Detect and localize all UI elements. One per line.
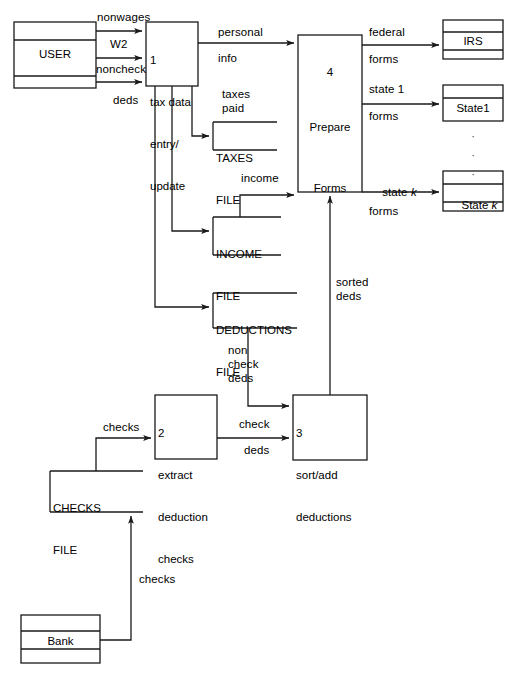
flow-label-forms-statek: forms — [369, 205, 398, 219]
entity-statek-label: State k — [443, 187, 503, 223]
process-1-label: 1 tax data entry/ update — [150, 25, 191, 221]
process-4-label: 4 Prepare Forms — [298, 37, 362, 223]
entity-state1-label: State1 — [443, 102, 503, 114]
entity-irs-label: IRS — [443, 35, 503, 47]
process-3-label: 3 sort/add deductions — [296, 398, 352, 552]
store-taxes-line2: FILE — [216, 193, 253, 207]
entity-bank-label: Bank — [21, 635, 100, 647]
process-4-line2: Forms — [298, 181, 362, 195]
process-1-line1: tax data — [150, 95, 191, 109]
flow-label-checks-bank: checks — [139, 573, 175, 587]
store-checks-line2: FILE — [53, 543, 101, 557]
flow-label-income: income — [241, 172, 279, 186]
flow-bankchecks-line — [100, 516, 131, 640]
process-2-label: 2 extract deduction checks — [158, 398, 208, 594]
flow-label-w2: W2 — [110, 38, 127, 52]
store-checks-line1: CHECKS — [53, 501, 101, 515]
process-3-number: 3 — [296, 426, 352, 440]
flow-label-statek-text: state — [382, 186, 411, 198]
entity-user-label: USER — [14, 48, 96, 60]
flow-label-forms-state1: forms — [369, 110, 398, 124]
store-income-line1: INCOME — [216, 247, 262, 261]
ellipsis-dot-3: · — [443, 169, 503, 180]
flow-checks-to-p2-line — [96, 438, 151, 471]
flow-label-deds-user: deds — [113, 94, 138, 108]
flow-label-non: non — [228, 344, 248, 358]
process-4-number: 4 — [298, 65, 362, 79]
process-3-line1: sort/add — [296, 468, 352, 482]
process-2-line1: extract — [158, 468, 208, 482]
process-2-line3: checks — [158, 552, 208, 566]
flow-label-check-p2: check — [239, 418, 270, 432]
flow-label-checks-store: checks — [103, 421, 139, 435]
entity-statek-text: State — [461, 199, 491, 211]
flow-label-state1: state 1 — [369, 83, 404, 97]
flow-taxespaid-line — [192, 86, 209, 136]
flow-label-taxes: taxes — [222, 88, 250, 102]
flow-label-info: info — [218, 52, 237, 66]
process-1-line3: update — [150, 179, 191, 193]
store-checks-label: CHECKS FILE — [53, 473, 101, 585]
flow-label-federal: federal — [369, 26, 405, 40]
flow-label-personal: personal — [218, 26, 263, 40]
ellipsis-dot-1: · — [443, 131, 503, 142]
process-4-line1: Prepare — [298, 120, 362, 134]
ellipsis-dot-2: · — [443, 150, 503, 161]
flow-label-nonwages: nonwages — [97, 11, 150, 25]
process-1-number: 1 — [150, 53, 191, 67]
process-2-number: 2 — [158, 426, 208, 440]
flow-label-sorteddeds: deds — [336, 290, 361, 304]
entity-statek-index: k — [492, 199, 498, 211]
states-ellipsis: · · · — [443, 131, 503, 180]
dfd-canvas: USER IRS State1 State k Bank · · · 1 tax… — [0, 0, 521, 682]
flow-label-check-deduct: check — [228, 358, 259, 372]
process-3-line2: deductions — [296, 510, 352, 524]
flow-label-statek-index: k — [411, 186, 417, 198]
flow-label-deds-p2: deds — [244, 444, 269, 458]
flow-label-forms-federal: forms — [369, 53, 398, 67]
store-taxes-line1: TAXES — [216, 151, 253, 165]
flow-label-deds-deduct: deds — [228, 372, 253, 386]
process-2-line2: deduction — [158, 510, 208, 524]
flow-label-noncheck: noncheck — [96, 63, 146, 77]
flow-label-paid: paid — [222, 102, 244, 116]
process-1-line2: entry/ — [150, 137, 191, 151]
flow-label-sorted: sorted — [336, 276, 369, 290]
store-deductions-line1: DEDUCTIONS — [216, 323, 292, 337]
